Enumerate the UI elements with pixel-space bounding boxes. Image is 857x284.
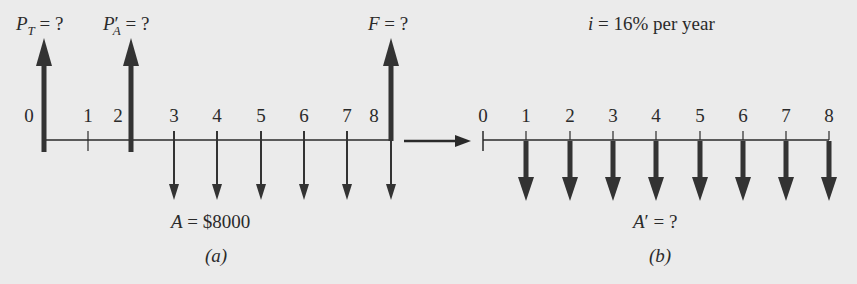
period-a-3: 3	[169, 106, 179, 125]
pt-var: P	[16, 13, 28, 34]
period-b-4: 4	[651, 106, 661, 125]
period-b-1: 1	[521, 106, 531, 125]
ap-var: A	[633, 211, 645, 232]
a-var: A	[171, 211, 183, 232]
period-b-8: 8	[824, 106, 834, 125]
ap-rest: ′ = ?	[645, 211, 678, 232]
f-label: F = ?	[368, 14, 408, 33]
pt-sub: T	[28, 23, 35, 38]
cash-flow-diagrams: PT = ? P′A = ? F = ? 0 1 2 3 4 5 6 7 8 A…	[0, 0, 857, 284]
pa-sub: A	[113, 23, 121, 38]
period-b-2: 2	[565, 106, 575, 125]
caption-a: (a)	[205, 246, 227, 265]
period-b-5: 5	[695, 106, 705, 125]
period-b-3: 3	[608, 106, 618, 125]
down-arrows-a-icon	[169, 131, 396, 200]
period-a-8: 8	[369, 106, 379, 125]
period-a-7: 7	[342, 106, 352, 125]
up-arrow-f-icon	[383, 38, 399, 141]
pt-rest: = ?	[35, 13, 64, 34]
f-rest: = ?	[380, 13, 409, 34]
caption-b: (b)	[649, 246, 671, 265]
interest-rest: = 16% per year	[593, 13, 715, 34]
period-b-0: 0	[478, 106, 488, 125]
pt-label: PT = ?	[16, 14, 64, 33]
interest-rate-label: i = 16% per year	[588, 14, 715, 33]
up-arrow-pa-icon	[123, 38, 139, 152]
period-b-7: 7	[781, 106, 791, 125]
a-rest: = $8000	[183, 211, 251, 232]
annual-amount-label: A = $8000	[171, 212, 250, 231]
up-arrow-pt-icon	[36, 38, 52, 152]
pa-label: P′A = ?	[103, 14, 149, 33]
diagram-graphics	[0, 0, 857, 284]
period-a-0: 0	[24, 106, 34, 125]
down-arrows-a-prime-icon	[518, 141, 837, 201]
f-var: F	[368, 13, 380, 34]
period-a-4: 4	[212, 106, 222, 125]
a-prime-label: A′ = ?	[633, 212, 677, 231]
transform-arrow-icon	[404, 135, 471, 147]
pa-rest: = ?	[121, 13, 150, 34]
period-b-6: 6	[738, 106, 748, 125]
period-a-1: 1	[83, 106, 93, 125]
period-a-6: 6	[299, 106, 309, 125]
period-a-2: 2	[113, 106, 123, 125]
period-a-5: 5	[256, 106, 266, 125]
